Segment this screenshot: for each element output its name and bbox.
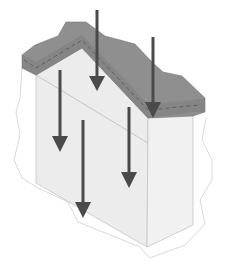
- block-flow-diagram: [0, 0, 233, 273]
- block-side-face: [147, 105, 193, 247]
